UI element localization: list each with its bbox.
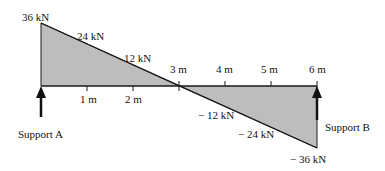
value-label-12: 12 kN — [124, 52, 151, 64]
value-label-neg12: − 12 kN — [198, 109, 234, 121]
support-a-label: Support A — [18, 128, 63, 140]
value-label-24: 24 kN — [77, 30, 104, 42]
axis-label-6m: 6 m — [309, 63, 326, 75]
shear-force-diagram: 36 kN 24 kN 12 kN − 12 kN − 24 kN − 36 k… — [0, 0, 385, 171]
axis-label-2m: 2 m — [125, 93, 142, 105]
value-label-36: 36 kN — [22, 11, 49, 23]
value-label-neg24: − 24 kN — [238, 128, 274, 140]
axis-label-3m: 3 m — [170, 63, 187, 75]
value-label-neg36: − 36 kN — [290, 153, 326, 165]
axis-label-1m: 1 m — [80, 93, 97, 105]
axis-label-4m: 4 m — [216, 63, 233, 75]
support-b-label: Support B — [325, 121, 370, 133]
axis-label-5m: 5 m — [261, 63, 278, 75]
support-a-arrow-icon — [36, 86, 46, 117]
